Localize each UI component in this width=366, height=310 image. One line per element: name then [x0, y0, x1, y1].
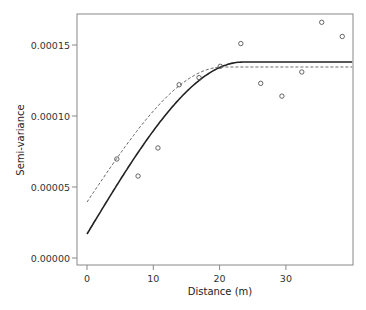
data-point [340, 34, 344, 38]
data-points [115, 20, 345, 178]
data-point [197, 75, 201, 79]
y-tick-label: 0.00000 [31, 253, 70, 264]
model-curves [87, 62, 352, 234]
x-axis: 0102030 [84, 265, 292, 284]
x-tick-label: 0 [84, 273, 90, 284]
y-tick-label: 0.00005 [31, 182, 70, 193]
x-tick-label: 10 [147, 273, 159, 284]
data-point [320, 20, 324, 24]
y-axis: 0.000000.000050.000100.00015 [31, 40, 77, 264]
x-tick-label: 30 [280, 273, 292, 284]
data-point [156, 146, 160, 150]
x-axis-title: Distance (m) [188, 286, 253, 297]
x-tick-label: 20 [214, 273, 226, 284]
y-axis-title: Semi-variance [15, 104, 26, 175]
data-point [136, 174, 140, 178]
y-tick-label: 0.00015 [31, 40, 70, 51]
solid-model-line [87, 62, 352, 234]
data-point [300, 70, 304, 74]
data-point [280, 94, 284, 98]
dashed-model-line [87, 67, 352, 202]
data-point [259, 81, 263, 85]
y-tick-label: 0.00010 [31, 111, 70, 122]
plot-frame [77, 14, 353, 265]
variogram-chart: 0.000000.000050.000100.00015 0102030 Dis… [0, 0, 366, 310]
data-point [239, 41, 243, 45]
